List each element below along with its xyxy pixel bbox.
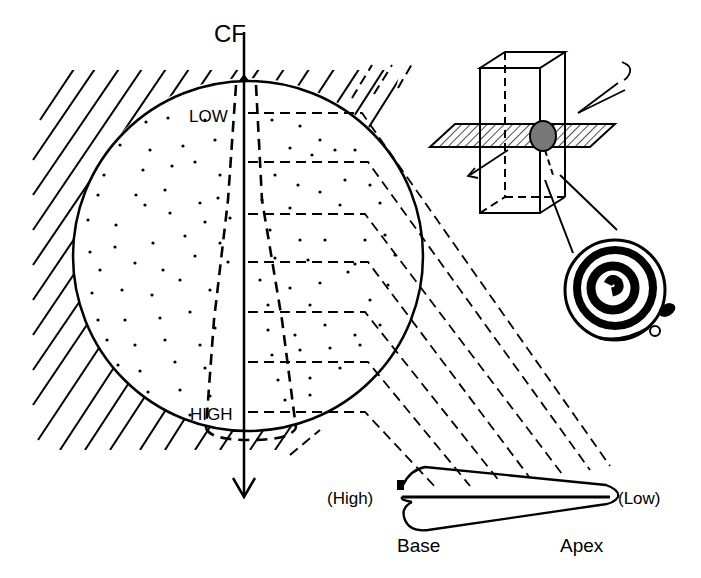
cochlea-high-end-label: (High): [327, 489, 373, 508]
nucleus-section-icon: [530, 121, 556, 151]
cochlea-apex-label: Apex: [560, 535, 604, 556]
tonotopic-diagram: CF LOW HIGH (High) (Low) Base Apex: [0, 0, 701, 578]
cochlea-base-label: Base: [397, 535, 440, 556]
cochlea-low-end-label: (Low): [618, 489, 661, 508]
electrode-icon: [578, 62, 630, 113]
low-frequency-label: LOW: [189, 107, 228, 126]
high-frequency-label: HIGH: [190, 405, 233, 424]
spiral-cochlea-icon: [565, 240, 678, 340]
cf-axis-label: CF: [214, 20, 246, 47]
unrolled-cochlea: [397, 467, 618, 530]
nucleus-outline: [73, 81, 423, 431]
spiral-connector-lines: [545, 150, 617, 253]
